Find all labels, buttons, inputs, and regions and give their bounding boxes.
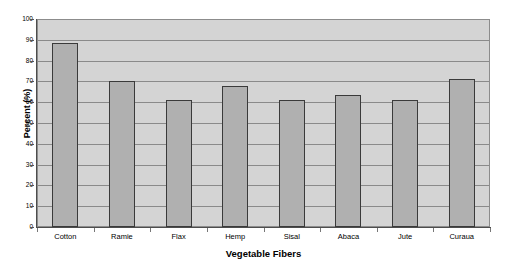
y-axis-tick-mark xyxy=(30,81,34,82)
x-axis-tick-label: Jute xyxy=(377,232,433,241)
x-axis-tick-mark xyxy=(94,228,95,232)
bar xyxy=(109,81,135,227)
x-axis-tick-mark xyxy=(150,228,151,232)
x-axis-tick-mark xyxy=(37,228,38,232)
x-axis-tick-mark xyxy=(320,228,321,232)
y-axis-tick-mark xyxy=(30,185,34,186)
y-axis-tick-mark xyxy=(30,61,34,62)
x-axis-tick-mark xyxy=(207,228,208,232)
x-axis-tick-label: Ramie xyxy=(94,232,150,241)
bar xyxy=(392,100,418,227)
bar xyxy=(52,43,78,227)
x-axis-title: Vegetable Fibers xyxy=(37,248,490,259)
x-axis-tick-mark xyxy=(377,228,378,232)
bars-layer xyxy=(37,19,490,227)
y-axis-tick-mark xyxy=(30,19,34,20)
y-axis-tick-labels: 0102030405060708090100 xyxy=(5,19,33,227)
x-axis-tick-label: Sisal xyxy=(264,232,320,241)
x-axis-tick-label: Curaua xyxy=(434,232,490,241)
y-axis-tick-mark xyxy=(30,165,34,166)
x-axis-tick-label: Flax xyxy=(151,232,207,241)
y-axis-tick-mark xyxy=(30,144,34,145)
y-axis-tick-mark xyxy=(30,206,34,207)
bar xyxy=(279,100,305,227)
x-axis-tick-label: Abaca xyxy=(320,232,376,241)
y-axis-tick-mark xyxy=(30,123,34,124)
x-axis-tick-labels: CottonRamieFlaxHempSisalAbacaJuteCuraua xyxy=(37,232,490,246)
x-axis-tick-mark xyxy=(433,228,434,232)
bar xyxy=(222,86,248,227)
bar xyxy=(166,100,192,227)
y-axis-tick-mark xyxy=(30,40,34,41)
x-axis-tick-mark xyxy=(264,228,265,232)
y-axis-tick-mark xyxy=(30,227,34,228)
x-axis-tick-label: Cotton xyxy=(37,232,93,241)
x-axis-tick-mark xyxy=(490,228,491,232)
bar xyxy=(335,95,361,227)
bar xyxy=(449,79,475,227)
y-axis-tick-mark xyxy=(30,102,34,103)
x-axis-tick-label: Hemp xyxy=(207,232,263,241)
bar-chart-figure: Percent (%) 0102030405060708090100 Cotto… xyxy=(0,0,506,271)
